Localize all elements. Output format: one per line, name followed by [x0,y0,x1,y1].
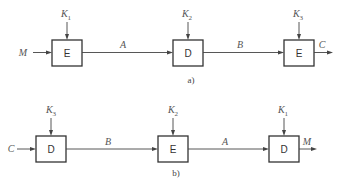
block-a3-label: E [296,48,303,59]
key-b1-label: K3 [45,104,57,118]
arrowhead-icon [171,130,175,136]
arrowhead-icon [263,147,269,151]
edge-b1-label: B [105,136,111,147]
arrowhead-icon [30,147,36,151]
edge-b2-label: A [221,136,229,147]
arrowhead-icon [278,51,284,55]
block-b2-label: E [170,144,177,155]
block-b1-label: D [47,144,54,155]
key-b3-label: K1 [277,104,289,118]
arrowhead-icon [282,130,286,136]
key-a1-label: K1 [60,8,72,22]
arrowhead-icon [152,147,158,151]
arrowhead-icon [327,51,333,55]
block-a2-label: D [184,48,191,59]
output-label-a: C [319,39,326,50]
arrowhead-icon [167,51,173,55]
arrowhead-icon [186,34,190,40]
output-label-b: M [302,136,312,147]
arrowhead-icon [46,51,52,55]
input-label-b: C [8,143,15,154]
arrowhead-icon [49,130,53,136]
diagram-a: M E K1 A D K2 B E K3 C a) [18,8,333,85]
key-a2-label: K2 [181,8,193,22]
caption-b: b) [172,168,180,178]
arrowhead-icon [311,147,317,151]
triple-encryption-diagram: M E K1 A D K2 B E K3 C a) [0,0,338,188]
key-a3-label: K3 [292,8,304,22]
caption-a: a) [188,75,195,85]
block-b3-label: D [280,144,287,155]
input-label-a: M [18,47,28,58]
edge-a1-label: A [119,39,127,50]
edge-a2-label: B [237,39,243,50]
diagram-b: C D K3 B E K2 A D K1 M b) [8,104,317,178]
arrowhead-icon [65,34,69,40]
key-b2-label: K2 [167,104,179,118]
block-a1-label: E [64,48,71,59]
arrowhead-icon [297,34,301,40]
